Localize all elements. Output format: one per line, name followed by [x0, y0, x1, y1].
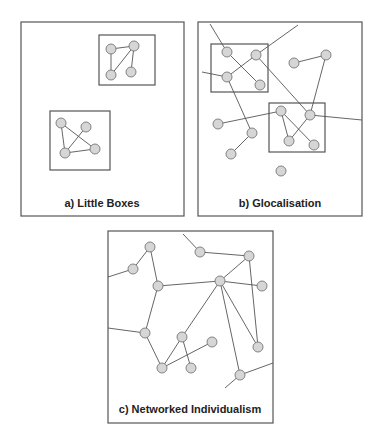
person-node	[106, 44, 116, 54]
tie-edge	[108, 328, 145, 333]
panel-c-networked-individualism: c) Networked Individualism	[108, 231, 273, 423]
person-node	[251, 50, 261, 60]
person-node	[247, 128, 257, 138]
tie-edge	[220, 281, 262, 286]
tie-edge	[310, 55, 326, 115]
person-node	[215, 276, 225, 286]
person-node	[309, 140, 319, 150]
tie-edge	[220, 281, 240, 375]
person-node	[60, 148, 70, 158]
person-node	[56, 118, 66, 128]
tie-edge	[162, 342, 212, 368]
person-node	[157, 363, 167, 373]
edges	[61, 46, 134, 153]
person-node	[145, 242, 155, 252]
nodes	[128, 242, 267, 380]
person-node	[140, 328, 150, 338]
panel-title-c: c) Networked Individualism	[119, 403, 262, 415]
tie-edge	[150, 247, 158, 286]
person-node	[213, 119, 223, 129]
tie-edge	[162, 337, 182, 368]
person-node	[305, 110, 315, 120]
person-node	[90, 144, 100, 154]
person-node	[126, 67, 136, 77]
panel-title-a: a) Little Boxes	[64, 197, 139, 209]
person-node	[276, 106, 286, 116]
person-node	[153, 281, 163, 291]
tie-edge	[145, 286, 158, 333]
tie-edge	[310, 115, 362, 120]
nodes	[56, 41, 139, 158]
person-node	[244, 251, 254, 261]
tie-edge	[227, 77, 252, 133]
person-node	[226, 149, 236, 159]
panel-a-little-boxes: a) Little Boxes	[21, 22, 184, 216]
tie-edge	[218, 111, 281, 124]
nodes	[213, 47, 331, 176]
person-node	[284, 136, 294, 146]
person-node	[81, 122, 91, 132]
person-node	[186, 363, 196, 373]
person-node	[106, 70, 116, 80]
person-node	[321, 50, 331, 60]
person-node	[195, 247, 205, 257]
person-node	[276, 166, 286, 176]
person-node	[128, 264, 138, 274]
tie-edge	[256, 25, 298, 55]
panel-frame	[21, 22, 184, 216]
tie-edge	[145, 333, 162, 368]
panel-b-glocalisation: b) Glocalisation	[198, 22, 362, 216]
person-node	[222, 47, 232, 57]
tie-edge	[220, 256, 249, 281]
person-node	[129, 41, 139, 51]
person-node	[257, 281, 267, 291]
tie-edge	[200, 252, 249, 256]
person-node	[235, 370, 245, 380]
tie-edge	[182, 281, 220, 337]
network-diagram: a) Little Boxes b) Glocalisation c) Netw…	[0, 0, 378, 437]
person-node	[177, 332, 187, 342]
tie-edge	[227, 55, 256, 77]
person-node	[253, 342, 263, 352]
person-node	[289, 58, 299, 68]
panel-title-b: b) Glocalisation	[239, 197, 322, 209]
person-node	[207, 337, 217, 347]
person-node	[222, 72, 232, 82]
frames	[21, 22, 184, 216]
person-node	[255, 80, 265, 90]
tie-edge	[158, 281, 220, 286]
